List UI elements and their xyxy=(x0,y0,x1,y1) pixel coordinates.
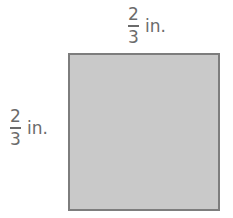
left-fraction: 2 3 xyxy=(10,108,21,148)
top-numerator: 2 xyxy=(128,6,139,23)
top-side-length-label: 2 3 in. xyxy=(128,6,166,46)
top-fraction: 2 3 xyxy=(128,6,139,46)
top-unit: in. xyxy=(145,16,166,36)
left-denominator: 3 xyxy=(10,131,21,148)
left-side-length-label: 2 3 in. xyxy=(10,108,48,148)
left-unit: in. xyxy=(27,118,48,138)
left-numerator: 2 xyxy=(10,108,21,125)
square-shape xyxy=(68,53,220,211)
top-denominator: 3 xyxy=(128,29,139,46)
